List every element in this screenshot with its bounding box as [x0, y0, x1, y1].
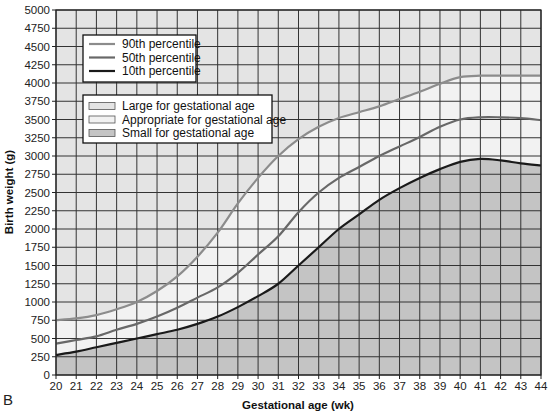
y-axis-title: Birth weight (g): [3, 150, 15, 234]
growth-chart: 0250500750100012501500175020002250250027…: [0, 0, 552, 414]
legend-area-swatch: [89, 103, 115, 110]
legend-regions: Large for gestational ageAppropriate for…: [83, 95, 286, 143]
y-tick-label: 2750: [24, 168, 50, 180]
y-tick-label: 1750: [24, 241, 50, 253]
y-tick-label: 1250: [24, 278, 50, 290]
legend-area-swatch: [89, 130, 115, 137]
y-tick-label: 750: [31, 314, 50, 326]
x-tick-label: 41: [474, 380, 487, 392]
x-tick-label: 26: [171, 380, 184, 392]
y-tick-label: 3500: [24, 114, 50, 126]
x-tick-label: 32: [292, 380, 305, 392]
y-tick-label: 3250: [24, 132, 50, 144]
y-tick-label: 4750: [24, 22, 50, 34]
x-tick-label: 24: [130, 380, 143, 392]
x-tick-label: 29: [231, 380, 244, 392]
legend-area-label: Small for gestational age: [122, 126, 254, 140]
x-axis-title: Gestational age (wk): [242, 399, 354, 411]
x-tick-label: 25: [151, 380, 164, 392]
y-tick-label: 3000: [24, 150, 50, 162]
panel-label: B: [3, 391, 13, 408]
y-tick-label: 1000: [24, 296, 50, 308]
y-tick-label: 1500: [24, 260, 50, 272]
legend-area-label: Large for gestational age: [122, 99, 255, 113]
y-tick-label: 4500: [24, 41, 50, 53]
y-tick-label: 4000: [24, 77, 50, 89]
y-tick-label: 4250: [24, 59, 50, 71]
y-tick-label: 3750: [24, 95, 50, 107]
x-tick-label: 33: [312, 380, 325, 392]
y-tick-label: 2500: [24, 187, 50, 199]
x-tick-label: 43: [514, 380, 527, 392]
legend-percentiles: 90th percentile50th percentile10th perce…: [83, 35, 201, 82]
x-tick-label: 28: [211, 380, 224, 392]
x-tick-label: 31: [272, 380, 285, 392]
x-tick-label: 35: [353, 380, 366, 392]
x-axis-ticks: 2021222324252627282930313233343536373839…: [50, 375, 548, 392]
x-tick-label: 39: [434, 380, 447, 392]
x-tick-label: 36: [373, 380, 386, 392]
x-tick-label: 30: [252, 380, 265, 392]
y-axis-ticks: 0250500750100012501500175020002250250027…: [24, 4, 56, 381]
y-tick-label: 2250: [24, 205, 50, 217]
x-tick-label: 42: [494, 380, 507, 392]
x-tick-label: 23: [110, 380, 123, 392]
x-tick-label: 34: [333, 380, 346, 392]
legend-line-label: 10th percentile: [122, 64, 201, 78]
x-tick-label: 21: [70, 380, 83, 392]
x-tick-label: 27: [191, 380, 204, 392]
x-tick-label: 37: [393, 380, 406, 392]
y-tick-label: 5000: [24, 4, 50, 16]
x-tick-label: 40: [454, 380, 467, 392]
legend-area-label: Appropriate for gestational age: [122, 113, 286, 127]
y-tick-label: 500: [31, 333, 50, 345]
legend-line-label: 90th percentile: [122, 37, 201, 51]
y-tick-label: 250: [31, 351, 50, 363]
x-tick-label: 38: [413, 380, 426, 392]
x-tick-label: 20: [50, 380, 63, 392]
legend-area-swatch: [89, 116, 115, 123]
x-tick-label: 44: [535, 380, 548, 392]
y-tick-label: 2000: [24, 223, 50, 235]
legend-line-label: 50th percentile: [122, 51, 201, 65]
x-tick-label: 22: [90, 380, 103, 392]
